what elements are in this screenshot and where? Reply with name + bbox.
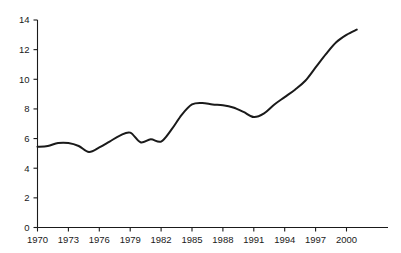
x-axis-tick-labels: 1970197319761979198219851988199119941997… (27, 234, 357, 245)
y-tick-label: 12 (19, 44, 30, 55)
y-tick-label: 0 (24, 222, 29, 233)
line-chart-canvas: 02468101214 1970197319761979198219851988… (0, 0, 401, 253)
x-tick-label: 1976 (89, 234, 110, 245)
x-tick-label: 2000 (336, 234, 357, 245)
x-axis-tick-marks (38, 228, 347, 232)
x-tick-label: 1985 (181, 234, 202, 245)
y-tick-label: 10 (19, 74, 30, 85)
data-series-line (38, 30, 357, 152)
x-tick-label: 1970 (27, 234, 48, 245)
x-tick-label: 1991 (243, 234, 264, 245)
y-tick-label: 8 (24, 103, 29, 114)
x-tick-label: 1994 (274, 234, 295, 245)
x-tick-label: 1979 (120, 234, 141, 245)
y-axis-tick-labels: 02468101214 (19, 14, 30, 233)
y-tick-label: 14 (19, 14, 30, 25)
chart-figure: 02468101214 1970197319761979198219851988… (0, 0, 401, 253)
x-tick-label: 1982 (151, 234, 172, 245)
y-tick-label: 6 (24, 133, 29, 144)
y-tick-label: 2 (24, 192, 29, 203)
x-tick-label: 1973 (58, 234, 79, 245)
x-tick-label: 1988 (212, 234, 233, 245)
x-tick-label: 1997 (305, 234, 326, 245)
y-axis-tick-marks (34, 20, 38, 228)
y-tick-label: 4 (24, 163, 29, 174)
